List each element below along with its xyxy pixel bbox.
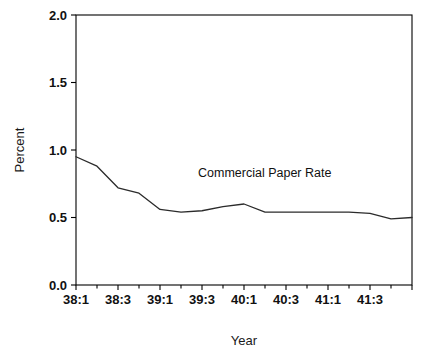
x-tick-label: 40:1 — [231, 292, 257, 307]
x-tick-label: 39:1 — [147, 292, 173, 307]
x-tick-label: 41:1 — [315, 292, 341, 307]
y-tick-label: 0.0 — [49, 278, 67, 293]
x-tick-label: 39:3 — [189, 292, 215, 307]
chart-figure: 0.00.51.01.52.0 38:138:339:139:340:140:3… — [0, 0, 425, 364]
series-annotation-label: Commercial Paper Rate — [198, 166, 331, 180]
y-tick-label: 1.5 — [49, 75, 67, 90]
x-tick-label: 38:1 — [63, 292, 89, 307]
y-tick-label: 0.5 — [49, 210, 67, 225]
x-axis-tick-labels: 38:138:339:139:340:140:341:141:3 — [63, 292, 383, 307]
y-tick-label: 1.0 — [49, 143, 67, 158]
plot-frame — [76, 15, 412, 285]
x-tick-label: 40:3 — [273, 292, 299, 307]
y-tick-label: 2.0 — [49, 8, 67, 23]
x-tick-label: 38:3 — [105, 292, 131, 307]
y-axis-tick-labels: 0.00.51.01.52.0 — [49, 8, 67, 293]
line-chart: 0.00.51.01.52.0 38:138:339:139:340:140:3… — [0, 0, 425, 364]
x-axis-title: Year — [231, 333, 258, 348]
x-axis-ticks — [76, 285, 412, 290]
y-axis-ticks — [71, 15, 76, 285]
y-axis-title: Percent — [12, 127, 27, 172]
x-tick-label: 41:3 — [357, 292, 383, 307]
